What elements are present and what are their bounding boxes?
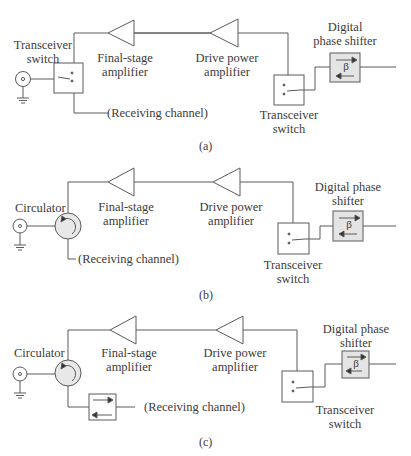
label-line: Transceiver (8, 38, 78, 52)
final-stage-amplifier-icon (108, 168, 134, 196)
label-final-stage-amplifier-a: Final-stage amplifier (90, 51, 160, 79)
label-line: Digital (310, 20, 380, 34)
label-receiving-channel-c: (Receiving channel) (144, 400, 245, 414)
caption-c: (c) (199, 435, 212, 450)
label-line: phase shifter (310, 34, 380, 48)
beta-symbol-b: β (346, 217, 352, 231)
label-line: Final-stage (91, 200, 161, 214)
label-digital-phase-shifter-a: Digital phase shifter (310, 20, 380, 48)
label-transceiver-switch-b: Transceiver switch (258, 258, 328, 286)
label-line: amplifier (94, 360, 164, 374)
label-line: Digital phase (316, 322, 396, 336)
label-circulator-b: Circulator (15, 201, 66, 215)
tr-switch-icon (278, 223, 309, 254)
drive-power-amplifier-icon (213, 168, 240, 196)
label-line: shifter (316, 336, 396, 350)
label-line: Final-stage (94, 346, 164, 360)
label-line: Transceiver (258, 258, 328, 272)
drive-power-amplifier-icon (216, 316, 243, 344)
label-line: Drive power (200, 346, 270, 360)
caption-a: (a) (199, 139, 212, 154)
label-line: Transceiver (254, 108, 324, 122)
label-line: amplifier (90, 65, 160, 79)
beta-symbol-a: β (343, 59, 349, 73)
circulator-icon (55, 360, 81, 386)
beta-symbol-c: β (353, 356, 359, 370)
label-line: switch (258, 272, 328, 286)
label-circulator-c: Circulator (14, 346, 65, 360)
tr-switch-icon (282, 371, 313, 402)
label-line: Digital phase (308, 180, 388, 194)
label-line: Drive power (192, 51, 262, 65)
label-receiving-channel-a: (Receiving channel) (107, 106, 208, 120)
final-stage-amplifier-icon (108, 20, 134, 46)
transceiver-switch-icon (54, 63, 83, 93)
label-line: switch (310, 417, 380, 431)
label-digital-phase-shifter-c: Digital phase shifter (316, 322, 396, 350)
label-line: amplifier (192, 65, 262, 79)
final-stage-amplifier-icon (110, 316, 136, 344)
label-line: shifter (308, 194, 388, 208)
label-line: Transceiver (310, 403, 380, 417)
label-line: amplifier (196, 214, 266, 228)
label-final-stage-amplifier-c: Final-stage amplifier (94, 346, 164, 374)
label-line: switch (254, 122, 324, 136)
label-final-stage-amplifier-b: Final-stage amplifier (91, 200, 161, 228)
label-receiving-channel-b: (Receiving channel) (78, 252, 179, 266)
drive-power-amplifier-icon (210, 19, 238, 47)
label-drive-power-amplifier-c: Drive power amplifier (200, 346, 270, 374)
label-line: Final-stage (90, 51, 160, 65)
label-line: amplifier (91, 214, 161, 228)
label-drive-power-amplifier-a: Drive power amplifier (192, 51, 262, 79)
label-transceiver-switch-a: Transceiver switch (8, 38, 78, 66)
label-digital-phase-shifter-b: Digital phase shifter (308, 180, 388, 208)
label-drive-power-amplifier-b: Drive power amplifier (196, 200, 266, 228)
label-line: switch (8, 52, 78, 66)
label-line: Drive power (196, 200, 266, 214)
label-transceiver-switch-right-a: Transceiver switch (254, 108, 324, 136)
circulator-icon (55, 213, 81, 239)
label-line: amplifier (200, 360, 270, 374)
label-transceiver-switch-c: Transceiver switch (310, 403, 380, 431)
caption-b: (b) (199, 288, 213, 303)
